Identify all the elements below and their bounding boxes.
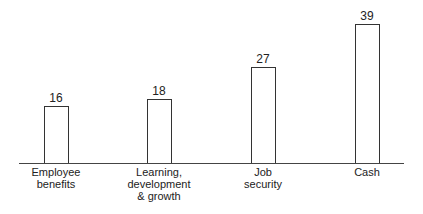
bar — [147, 99, 172, 163]
x-tick-label: Job security — [213, 166, 313, 190]
bar-chart: 16Employee benefits18Learning, developme… — [0, 0, 423, 214]
bar-value-label: 39 — [337, 10, 397, 22]
bar — [355, 24, 380, 163]
x-axis-line — [19, 163, 404, 164]
x-tick-label: Employee benefits — [6, 166, 106, 190]
bar — [44, 106, 69, 163]
bar-value-label: 18 — [129, 85, 189, 97]
bar-value-label: 16 — [26, 92, 86, 104]
bar — [251, 67, 276, 163]
x-tick-label: Learning, development & growth — [109, 166, 209, 202]
bar-value-label: 27 — [233, 53, 293, 65]
x-tick-label: Cash — [317, 166, 417, 178]
